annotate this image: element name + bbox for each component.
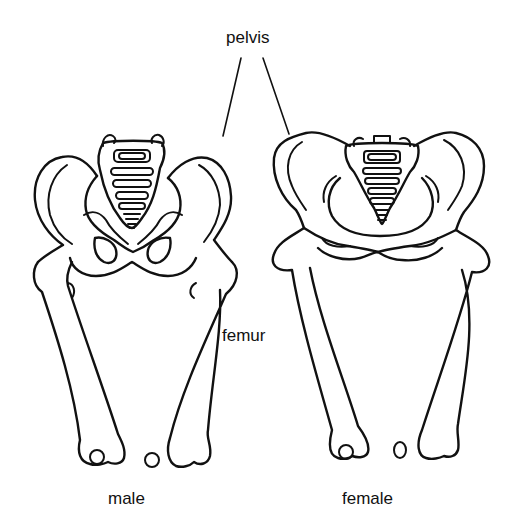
male-right-ilium-inner xyxy=(199,165,220,242)
label-pelvis: pelvis xyxy=(226,28,269,48)
pelvis-leader-lines xyxy=(223,58,289,136)
leader-line-male xyxy=(223,58,241,136)
female-left-femur xyxy=(273,228,369,459)
female-sacral-foramen-1 xyxy=(364,151,400,163)
female-skeleton xyxy=(273,132,489,459)
male-sacral-foramen-3 xyxy=(113,180,151,187)
male-left-obturator xyxy=(94,238,116,263)
female-pelvic-inlet xyxy=(329,178,433,236)
female-left-ilium-inner xyxy=(288,142,306,210)
male-sacral-foramen-4 xyxy=(116,192,148,199)
male-left-ilium-inner xyxy=(48,165,72,244)
male-left-femur-condyle xyxy=(90,450,104,464)
male-left-femur xyxy=(34,262,125,465)
male-skeleton xyxy=(34,135,237,467)
male-right-ilium xyxy=(168,157,232,262)
leader-line-female xyxy=(263,58,289,134)
female-sacral-foramen-1-inner xyxy=(368,154,396,160)
caption-male: male xyxy=(108,489,145,509)
male-sacral-foramen-5 xyxy=(119,203,145,209)
female-sacral-foramen-5 xyxy=(370,198,394,204)
male-ischium xyxy=(70,258,196,276)
female-sacral-foramen-4 xyxy=(368,188,396,194)
female-ischium xyxy=(318,248,442,260)
pelvis-comparison-diagram xyxy=(0,0,511,531)
caption-female: female xyxy=(342,489,393,509)
female-pubic-arch xyxy=(304,228,456,252)
male-right-femur xyxy=(168,262,237,467)
female-right-ilium-inner xyxy=(444,140,464,210)
male-sacral-foramen-2 xyxy=(111,168,153,175)
female-right-femur xyxy=(419,230,490,459)
female-sacral-foramen-2 xyxy=(363,168,401,174)
label-femur: femur xyxy=(222,326,265,346)
female-sacrum-top xyxy=(374,136,390,142)
male-sacral-foramen-1-inner xyxy=(119,153,145,159)
male-right-femur-condyle xyxy=(145,453,159,467)
female-left-femur-condyle xyxy=(339,445,353,459)
male-left-ilium xyxy=(35,156,97,262)
female-sacral-foramen-3 xyxy=(365,178,399,184)
female-right-femur-condyle xyxy=(394,442,406,458)
male-right-trochanter xyxy=(190,283,196,298)
